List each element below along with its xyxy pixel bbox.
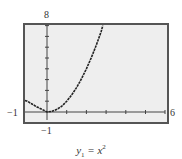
graph-plot	[0, 0, 182, 159]
function-caption: y1 = x2	[0, 143, 182, 159]
caption-equation: = x	[85, 144, 103, 156]
parabola-curve	[25, 26, 103, 112]
caption-exponent: 2	[102, 143, 106, 151]
